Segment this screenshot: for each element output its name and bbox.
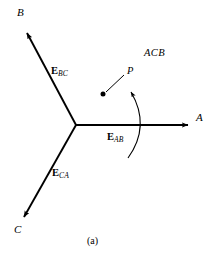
phasor-label-e-bc: EBC — [51, 66, 68, 78]
point-label-p: P — [127, 66, 133, 77]
terminal-label-b: B — [17, 7, 24, 18]
phasor-diagram-figure: A B C EAB EBC ECA ACB P (a) — [0, 0, 215, 255]
phasor-symbol-e: E — [51, 65, 58, 76]
point-leader-line — [106, 75, 124, 92]
terminal-label-a: A — [196, 112, 203, 123]
point-marker-dot — [101, 92, 106, 97]
phasor-label-e-ca: ECA — [52, 168, 69, 180]
phasor-subscript-ab: AB — [114, 135, 124, 144]
sequence-label-acb: ACB — [144, 48, 165, 59]
phasor-subscript-bc: BC — [58, 69, 68, 78]
phasor-symbol-e: E — [107, 131, 114, 142]
terminal-label-c: C — [14, 224, 21, 235]
phasor-subscript-ca: CA — [59, 171, 69, 180]
phasor-symbol-e: E — [52, 167, 59, 178]
phasor-diagram-canvas — [0, 0, 215, 255]
phasor-label-e-ab: EAB — [107, 132, 124, 144]
phasor-line-b — [27, 33, 76, 125]
figure-caption: (a) — [87, 236, 98, 246]
